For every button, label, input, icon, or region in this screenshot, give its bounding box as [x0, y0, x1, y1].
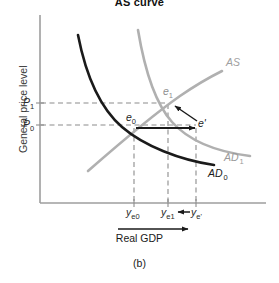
- equilibrium-label-e0: e0: [126, 112, 136, 123]
- x-axis-label-yeprime: ye': [191, 207, 202, 218]
- ad0-curve-label: AD0: [208, 168, 228, 179]
- x-axis-label-ye0: ye0: [126, 207, 140, 218]
- as-curve-label: AS: [226, 57, 240, 68]
- as-curve-figure: AS curve General price level: [0, 0, 279, 283]
- panel-label: (b): [0, 258, 279, 269]
- y-axis-label-p1: P1: [23, 97, 34, 108]
- x-axis-title: Real GDP: [0, 233, 279, 244]
- equilibrium-label-e1: e1: [163, 86, 173, 97]
- equilibrium-adjustment-arrow: [175, 106, 197, 121]
- ad1-curve: [138, 30, 250, 156]
- x-axis-label-ye1: ye1: [161, 207, 175, 218]
- y-axis-label-p0: P0: [23, 119, 34, 130]
- equilibrium-label-eprime: e': [198, 118, 206, 129]
- ad1-curve-label: AD1: [224, 152, 244, 163]
- ad0-curve: [78, 35, 214, 165]
